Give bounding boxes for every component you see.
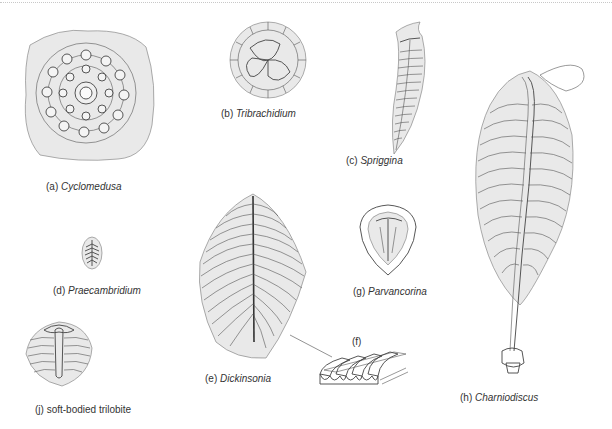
top-dotted-border [0, 2, 612, 3]
praecambridium-illustration [81, 236, 103, 270]
cyclomedusa-illustration [18, 25, 158, 165]
spriggina-illustration [388, 20, 438, 160]
caption-label: (h) [460, 392, 475, 403]
caption-label: (a) [46, 181, 61, 192]
caption-label: (j) [35, 404, 47, 415]
caption-praecambridium: (d) Praecambridium [53, 285, 141, 296]
caption-detail-f: (f) [352, 336, 361, 347]
dickinsonia-segment-detail [314, 350, 409, 390]
caption-parvancorina: (g) Parvancorina [353, 286, 427, 297]
caption-species-name: Charniodiscus [475, 392, 538, 403]
caption-species-name: Dickinsonia [220, 373, 271, 384]
caption-spriggina: (c) Spriggina [346, 155, 403, 166]
parvancorina-illustration [358, 203, 418, 278]
caption-cyclomedusa: (a) Cyclomedusa [46, 181, 122, 192]
caption-species-name: Spriggina [360, 155, 402, 166]
caption-charniodiscus: (h) Charniodiscus [460, 392, 538, 403]
caption-species-name: Parvancorina [368, 286, 427, 297]
caption-label: (d) [53, 285, 68, 296]
caption-species-name: soft-bodied trilobite [47, 404, 132, 415]
caption-species-name: Cyclomedusa [61, 181, 122, 192]
tribrachidium-illustration [228, 20, 308, 100]
caption-dickinsonia: (e) Dickinsonia [205, 373, 271, 384]
caption-species-name: Praecambridium [68, 285, 141, 296]
caption-label: (f) [352, 336, 361, 347]
caption-species-name: Tribrachidium [236, 108, 296, 119]
caption-label: (e) [205, 373, 220, 384]
caption-tribrachidium: (b) Tribrachidium [221, 108, 296, 119]
trilobite-illustration [24, 318, 94, 388]
caption-label: (g) [353, 286, 368, 297]
caption-label: (c) [346, 155, 360, 166]
caption-soft-bodied-trilobite: (j) soft-bodied trilobite [35, 404, 131, 415]
charniodiscus-illustration [470, 55, 590, 400]
caption-label: (b) [221, 108, 236, 119]
